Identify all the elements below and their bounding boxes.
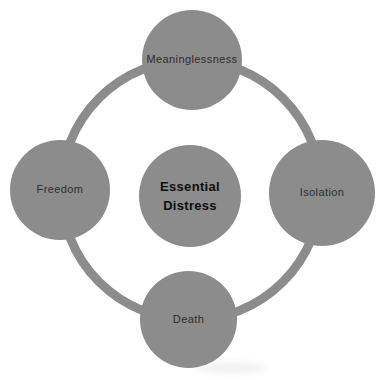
center-label-line-1: Essential [160, 177, 220, 196]
node-freedom-label: Freedom [37, 183, 84, 196]
node-death-label: Death [173, 313, 204, 326]
node-meaninglessness: Meaninglessness [142, 10, 242, 110]
node-isolation: Isolation [269, 140, 375, 246]
node-freedom: Freedom [10, 140, 110, 240]
diagram-canvas: Meaninglessness Isolation Death Freedom … [0, 0, 382, 380]
node-isolation-label: Isolation [300, 186, 345, 199]
node-essential-distress: Essential Distress [139, 145, 241, 247]
center-label: Essential Distress [160, 177, 220, 215]
node-meaninglessness-label: Meaninglessness [147, 53, 238, 66]
node-death: Death [140, 271, 237, 368]
center-label-line-2: Distress [160, 196, 220, 215]
